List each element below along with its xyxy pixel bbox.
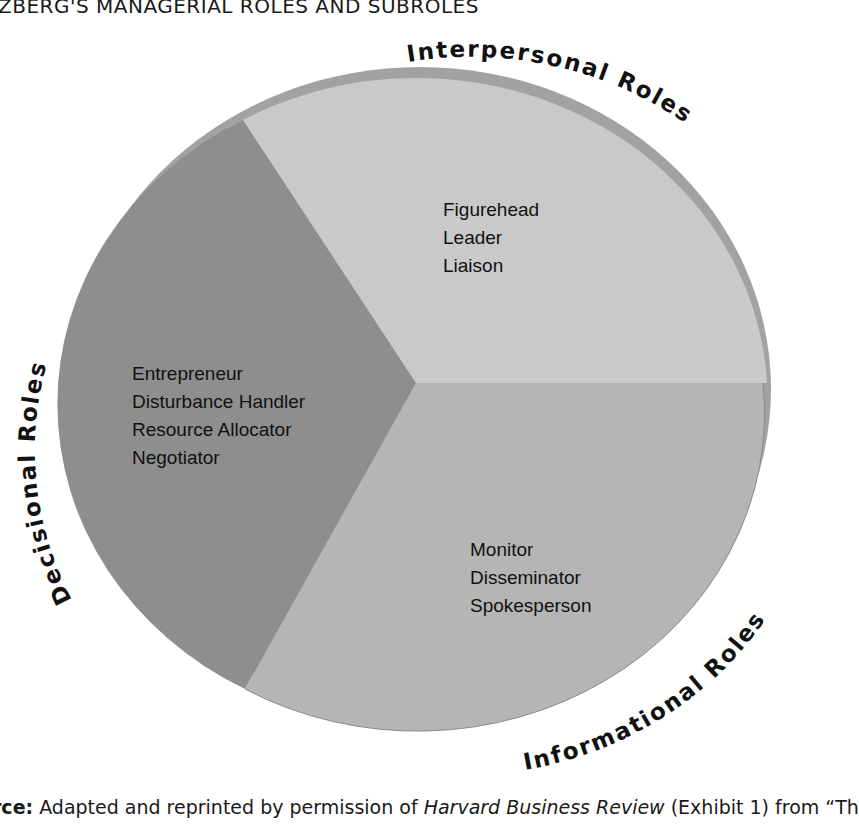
caption-journal: Harvard Business Review [424,796,665,818]
interpersonal-subroles: Figurehead Leader Liaison [443,196,539,280]
subrole-resource-allocator: Resource Allocator [132,416,305,444]
subrole-figurehead: Figurehead [443,196,539,224]
caption-text-2: (Exhibit 1) from “Th [665,796,859,818]
subrole-entrepreneur: Entrepreneur [132,360,305,388]
caption-prefix: rce: [0,796,33,818]
subrole-monitor: Monitor [470,536,591,564]
subrole-disseminator: Disseminator [470,564,591,592]
informational-subroles: Monitor Disseminator Spokesperson [470,536,591,620]
decisional-subroles: Entrepreneur Disturbance Handler Resourc… [132,360,305,472]
caption-text-1: Adapted and reprinted by permission of [33,796,424,818]
subrole-liaison: Liaison [443,252,539,280]
subrole-spokesperson: Spokesperson [470,592,591,620]
subrole-disturbance-handler: Disturbance Handler [132,388,305,416]
source-caption: rce: Adapted and reprinted by permission… [0,796,859,818]
subrole-leader: Leader [443,224,539,252]
subrole-negotiator: Negotiator [132,444,305,472]
